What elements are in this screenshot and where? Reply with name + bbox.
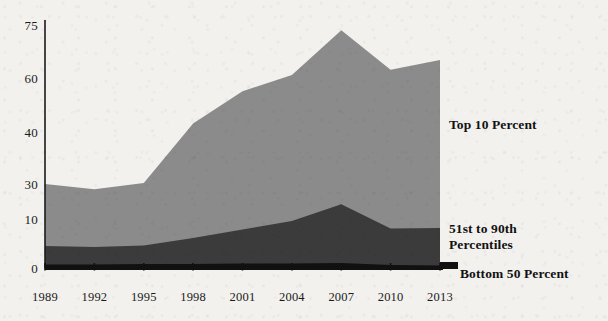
x-tick-label-1989: 1989	[22, 291, 68, 304]
y-tick-label-60: 60	[8, 72, 38, 85]
x-tick-label-2007: 2007	[318, 291, 364, 304]
x-tick-label-1998: 1998	[170, 291, 216, 304]
legend-label-bottom-50-percent: Bottom 50 Percent	[460, 266, 569, 282]
legend-label-51st-to-90th-percentiles: 51st to 90th Percentiles	[449, 221, 517, 254]
x-tick-label-2010: 2010	[368, 291, 414, 304]
x-tick-label-1992: 1992	[71, 291, 117, 304]
legend-swatch-bottom-50-percent	[440, 262, 458, 269]
legend-label-top-10-percent: Top 10 Percent	[449, 117, 537, 133]
x-tick-label-2004: 2004	[269, 291, 315, 304]
y-tick-label-0: 0	[8, 262, 38, 275]
y-tick-label-75: 75	[8, 19, 38, 32]
y-tick-label-10: 10	[8, 213, 38, 226]
y-tick-label-40: 40	[8, 126, 38, 139]
x-tick-label-2013: 2013	[417, 291, 463, 304]
y-tick-label-30: 30	[8, 178, 38, 191]
x-tick-label-1995: 1995	[121, 291, 167, 304]
chart-canvas: 75 60 40 30 10 0 1989 1992 1995 1998 200…	[0, 0, 608, 321]
x-tick-label-2001: 2001	[220, 291, 266, 304]
